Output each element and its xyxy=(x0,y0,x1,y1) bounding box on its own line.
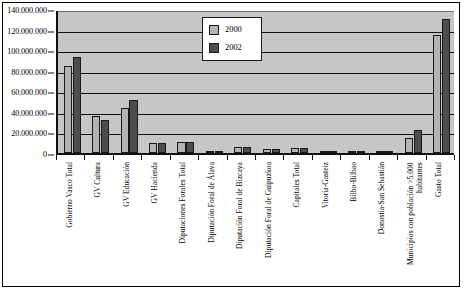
bar-2000-10 xyxy=(348,151,356,153)
y-tick-mark xyxy=(48,155,54,156)
y-tick-mark xyxy=(48,52,54,53)
bar-2002-9 xyxy=(328,151,336,153)
x-axis-label: GV Hacienda xyxy=(151,162,160,203)
x-axis-label: Vitoria-Gasteiz xyxy=(322,162,331,208)
bar-2002-4 xyxy=(186,142,194,153)
x-tick-mark xyxy=(56,155,57,160)
bar-2002-10 xyxy=(357,151,365,153)
y-tick-label: 120.000.000 xyxy=(7,27,47,35)
gridline xyxy=(58,114,454,115)
y-axis: 020.000.00040.000.00060.000.00080.000.00… xyxy=(0,0,56,160)
chart-legend: 2000 2002 xyxy=(202,17,262,61)
bar-2002-11 xyxy=(385,151,393,153)
bar-2000-1 xyxy=(92,116,100,153)
bar-2002-8 xyxy=(300,148,308,153)
bar-2000-5 xyxy=(206,151,214,153)
x-tick-mark xyxy=(369,155,370,160)
x-tick-mark xyxy=(426,155,427,160)
x-tick-mark xyxy=(84,155,85,160)
bar-2000-7 xyxy=(263,149,271,153)
x-tick-mark xyxy=(198,155,199,160)
x-tick-mark xyxy=(340,155,341,160)
bar-2000-3 xyxy=(149,143,157,153)
legend-item-2000: 2000 xyxy=(209,25,242,35)
x-tick-mark xyxy=(141,155,142,160)
legend-swatch-2000 xyxy=(209,25,219,35)
y-tick-mark xyxy=(48,31,54,32)
y-tick-label: 40.000.000 xyxy=(11,110,47,118)
bar-2000-11 xyxy=(376,151,384,153)
bar-2002-13 xyxy=(442,19,450,153)
x-tick-mark xyxy=(397,155,398,160)
bar-2002-2 xyxy=(129,100,137,153)
x-axis-label: Capitales Total xyxy=(293,162,302,208)
bar-2002-7 xyxy=(272,149,280,153)
x-axis-label: Diputación Foral de Guipuzkoa xyxy=(265,162,274,258)
bar-2000-6 xyxy=(234,147,242,153)
x-axis-label: Municipios con población >5.000 habitant… xyxy=(407,162,424,286)
x-axis-label: Diputación Foral de Álava xyxy=(208,162,217,243)
bar-2000-4 xyxy=(177,142,185,153)
legend-label-2000: 2000 xyxy=(225,26,242,34)
x-tick-mark xyxy=(312,155,313,160)
x-tick-mark xyxy=(283,155,284,160)
bar-2000-0 xyxy=(64,66,72,153)
bar-2002-6 xyxy=(243,147,251,153)
gridline xyxy=(58,93,454,94)
x-axis-label: Diputación Foral de Bizcaya xyxy=(236,162,245,249)
y-tick-mark xyxy=(48,72,54,73)
x-axis-label: Diputaciones Forales Total xyxy=(179,162,188,244)
bar-2002-3 xyxy=(158,143,166,153)
x-axis-label: Donostia-San Sebastián xyxy=(378,162,387,234)
x-tick-mark xyxy=(227,155,228,160)
y-tick-label: 140.000.000 xyxy=(7,7,47,15)
x-tick-mark xyxy=(255,155,256,160)
gridline xyxy=(58,134,454,135)
gridline xyxy=(58,73,454,74)
x-axis-label: GV Educación xyxy=(123,162,132,207)
bar-2000-2 xyxy=(121,108,129,153)
y-tick-label: 80.000.000 xyxy=(11,69,47,77)
x-tick-mark xyxy=(113,155,114,160)
bar-2000-9 xyxy=(320,151,328,153)
y-tick-label: 100.000.000 xyxy=(7,48,47,56)
x-axis-label: Bilbo-Bilbao xyxy=(350,162,359,202)
y-tick-mark xyxy=(48,134,54,135)
bar-2002-5 xyxy=(215,151,223,153)
bar-2000-13 xyxy=(433,35,441,153)
bar-chart: 020.000.00040.000.00060.000.00080.000.00… xyxy=(0,0,464,297)
bar-2000-8 xyxy=(291,148,299,153)
bar-2002-12 xyxy=(414,130,422,153)
y-tick-label: 0 xyxy=(43,151,47,159)
bar-2002-0 xyxy=(73,57,81,153)
x-axis-label: Gobierno Vasco Total xyxy=(66,162,75,228)
bar-2002-1 xyxy=(101,120,109,153)
x-tick-mark xyxy=(454,155,455,160)
y-tick-label: 20.000.000 xyxy=(11,130,47,138)
gridline xyxy=(58,11,454,12)
y-tick-mark xyxy=(48,11,54,12)
y-tick-mark xyxy=(48,93,54,94)
legend-label-2002: 2002 xyxy=(225,44,242,52)
y-tick-mark xyxy=(48,113,54,114)
x-axis-label: GV Cultura xyxy=(94,162,103,198)
legend-item-2002: 2002 xyxy=(209,43,242,53)
legend-swatch-2002 xyxy=(209,43,219,53)
x-tick-mark xyxy=(170,155,171,160)
bar-2000-12 xyxy=(405,138,413,153)
y-tick-label: 60.000.000 xyxy=(11,89,47,97)
x-axis-label: Gasto Total xyxy=(435,162,444,197)
